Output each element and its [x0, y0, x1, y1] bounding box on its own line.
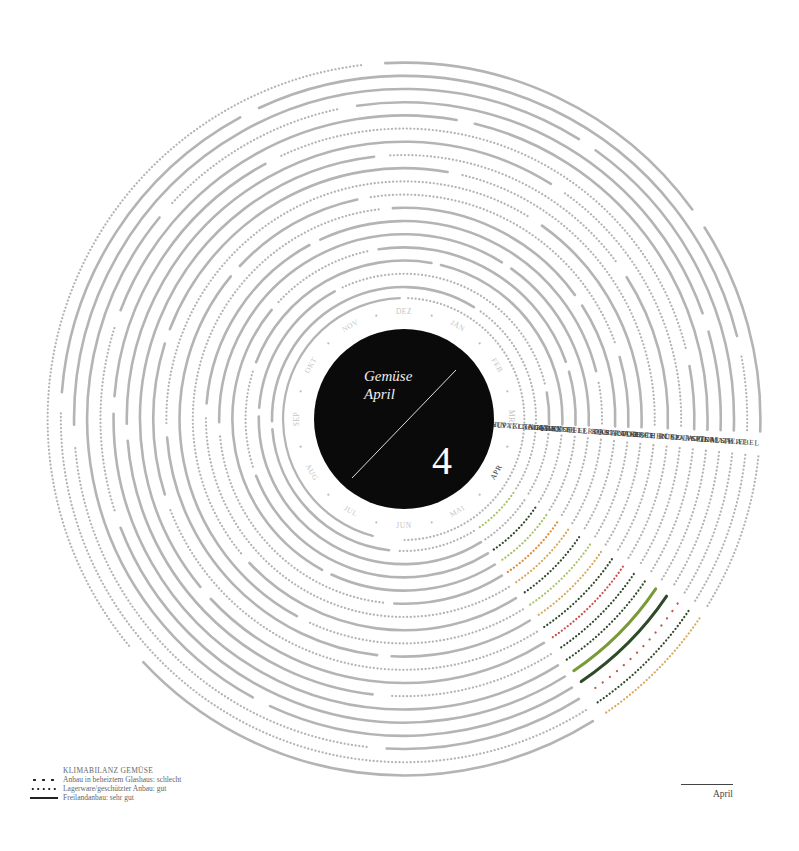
month-divider-dot — [327, 342, 329, 344]
season-segment — [628, 447, 667, 559]
radial-seasonal-chart: CHINAKOHLHÄUPTELSALATGURKEKAROTTEKARTOFF… — [0, 0, 799, 851]
month-label-mai: MAI — [448, 503, 466, 519]
season-segment — [143, 662, 593, 775]
legend-title: KLIMABILANZ GEMÜSE — [30, 766, 181, 775]
season-segment — [620, 357, 629, 427]
month-divider-dot — [431, 315, 433, 317]
legend-item-solid: Freilandanbau: sehr gut — [30, 793, 181, 802]
season-segment — [599, 383, 602, 426]
season-segment — [279, 251, 369, 302]
month-divider-dot — [506, 446, 508, 448]
month-label-jun: JUN — [396, 521, 411, 530]
month-divider-dot — [431, 521, 433, 523]
center-disc: Gemüse April 4 — [314, 329, 494, 509]
month-label-jän: JÄN — [449, 318, 467, 333]
month-divider-dot — [327, 494, 329, 496]
center-title-2: April — [363, 386, 395, 402]
season-segment — [61, 413, 586, 762]
april-segment-spargel — [574, 589, 656, 671]
month-label-jul: JUL — [342, 503, 359, 518]
month-label-apr: APR — [488, 463, 504, 481]
april-segment-pastinake — [537, 552, 601, 616]
legend-item-sparse: Anbau in beheiztem Glashaus: schlecht — [30, 775, 181, 784]
season-segment — [392, 621, 530, 657]
vegetable-label: ZWIEBEL — [722, 436, 760, 448]
sparse-dots-icon — [30, 776, 58, 784]
season-segment — [153, 344, 165, 495]
month-label-nov: NOV — [340, 317, 360, 334]
season-segment — [561, 438, 588, 517]
center-month-number: 4 — [432, 438, 452, 483]
month-divider-dot — [506, 390, 508, 392]
season-segment — [516, 433, 535, 489]
month-label: April — [681, 784, 733, 799]
dense-dots-icon — [30, 785, 58, 793]
april-segment-kohl — [522, 537, 579, 594]
season-segment — [371, 195, 616, 344]
season-segment — [617, 445, 654, 552]
season-segment — [385, 63, 692, 210]
legend-item-dense: Lagerware/geschützter Anbau: gut — [30, 784, 181, 793]
month-label-feb: FEB — [490, 356, 505, 374]
season-segment — [569, 372, 576, 425]
month-divider-dot — [300, 446, 302, 448]
center-title-1: Gemüse — [364, 368, 413, 384]
season-segment — [662, 451, 706, 580]
season-segment — [128, 441, 373, 695]
april-segment-knollensellerie — [515, 530, 568, 583]
season-segment — [121, 115, 457, 310]
month-label-okt: OKT — [303, 356, 319, 375]
month-label-aug: AUG — [304, 462, 321, 482]
season-segment — [594, 443, 627, 538]
april-segment-häuptelsalat — [485, 500, 524, 539]
month-divider-dot — [375, 521, 377, 523]
month-label-mrz: MRZ — [507, 410, 516, 428]
april-segment-gurke — [493, 508, 536, 551]
season-segment — [650, 449, 693, 573]
season-segment — [180, 276, 297, 616]
month-divider-dot — [479, 494, 481, 496]
season-segment — [742, 357, 748, 432]
season-segment — [673, 452, 719, 587]
season-segment — [48, 65, 364, 646]
solid-line-icon — [30, 794, 58, 802]
season-segment — [387, 699, 579, 749]
month-label-dez: DEZ — [396, 307, 412, 316]
season-segment — [596, 150, 734, 430]
season-segment — [639, 448, 680, 566]
vegetable-labels: CHINAKOHLHÄUPTELSALATGURKEKAROTTEKARTOFF… — [484, 419, 760, 447]
season-segment — [511, 269, 589, 426]
season-segment — [527, 434, 548, 496]
season-segment — [709, 332, 721, 430]
season-segment — [250, 563, 516, 630]
season-segment — [582, 306, 615, 427]
season-segment — [475, 124, 708, 430]
month-divider-dot — [375, 315, 377, 317]
month-label-sep: SEP — [292, 412, 301, 426]
season-segment — [547, 393, 549, 425]
april-segment-kartoffel — [507, 522, 557, 572]
season-segment — [246, 371, 253, 466]
legend: KLIMABILANZ GEMÜSE Anbau in beheiztem Gl… — [30, 766, 181, 802]
season-segment — [309, 609, 523, 643]
month-divider-dot — [479, 342, 481, 344]
month-divider-dot — [300, 390, 302, 392]
season-segment — [75, 445, 367, 747]
season-segment — [690, 366, 695, 429]
